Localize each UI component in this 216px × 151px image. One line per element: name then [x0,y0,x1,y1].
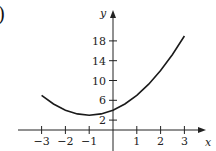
x-tick-label: 1 [133,135,140,148]
y-tick-label: 6 [99,94,106,107]
y-axis-label: y [99,7,107,20]
x-tick-label: 3 [181,135,188,148]
y-axis-arrow-icon [110,10,116,18]
y-tick-label: 2 [99,114,106,127]
y-tick-label: 14 [92,55,106,68]
x-tick-label: −1 [81,135,97,148]
x-axis-arrow-icon [198,127,206,133]
x-tick-label: −3 [33,135,49,148]
panel-label: ) [0,2,5,25]
x-ticks: −3−2−1123 [33,126,187,148]
y-tick-label: 10 [92,75,106,88]
x-axis-label: x [205,136,212,149]
chart: ) −3−2−1123 26101418 x y [0,0,216,151]
x-tick-label: 2 [157,135,164,148]
x-tick-label: −2 [57,135,73,148]
y-tick-label: 18 [92,35,106,48]
